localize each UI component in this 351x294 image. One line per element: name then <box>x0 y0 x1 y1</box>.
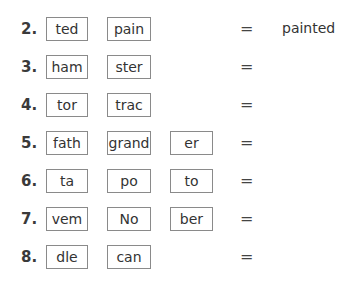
row-number: 2. <box>21 20 37 38</box>
row-number: 7. <box>21 210 37 228</box>
syllable-box: ted <box>46 17 88 41</box>
exercise-row-4: 4. tor trac = <box>0 93 351 119</box>
exercise-row-2: 2. ted pain = painted <box>0 17 351 43</box>
syllable-box: tor <box>46 93 88 117</box>
syllable-box: trac <box>107 93 151 117</box>
syllable-box: ta <box>46 169 88 193</box>
syllable-box: er <box>170 131 213 155</box>
equals-sign: = <box>240 19 253 38</box>
equals-sign: = <box>240 171 253 190</box>
syllable-box: po <box>107 169 151 193</box>
answer-text: painted <box>282 20 335 36</box>
row-number: 4. <box>21 96 37 114</box>
equals-sign: = <box>240 57 253 76</box>
syllable-box: pain <box>107 17 151 41</box>
syllable-box: can <box>107 245 151 269</box>
exercise-row-7: 7. vem No ber = <box>0 207 351 233</box>
equals-sign: = <box>240 247 253 266</box>
row-number: 6. <box>21 172 37 190</box>
syllable-box: grand <box>107 131 151 155</box>
syllable-box: dle <box>46 245 88 269</box>
syllable-box: to <box>170 169 213 193</box>
equals-sign: = <box>240 209 253 228</box>
exercise-row-5: 5. fath grand er = <box>0 131 351 157</box>
row-number: 5. <box>21 134 37 152</box>
equals-sign: = <box>240 133 253 152</box>
exercise-row-8: 8. dle can = <box>0 245 351 271</box>
syllable-box: No <box>107 207 151 231</box>
exercise-row-6: 6. ta po to = <box>0 169 351 195</box>
row-number: 3. <box>21 58 37 76</box>
syllable-box: fath <box>46 131 88 155</box>
syllable-box: ster <box>107 55 151 79</box>
syllable-box: ber <box>170 207 213 231</box>
row-number: 8. <box>21 248 37 266</box>
equals-sign: = <box>240 95 253 114</box>
exercise-row-3: 3. ham ster = <box>0 55 351 81</box>
syllable-box: vem <box>46 207 88 231</box>
syllable-box: ham <box>46 55 88 79</box>
